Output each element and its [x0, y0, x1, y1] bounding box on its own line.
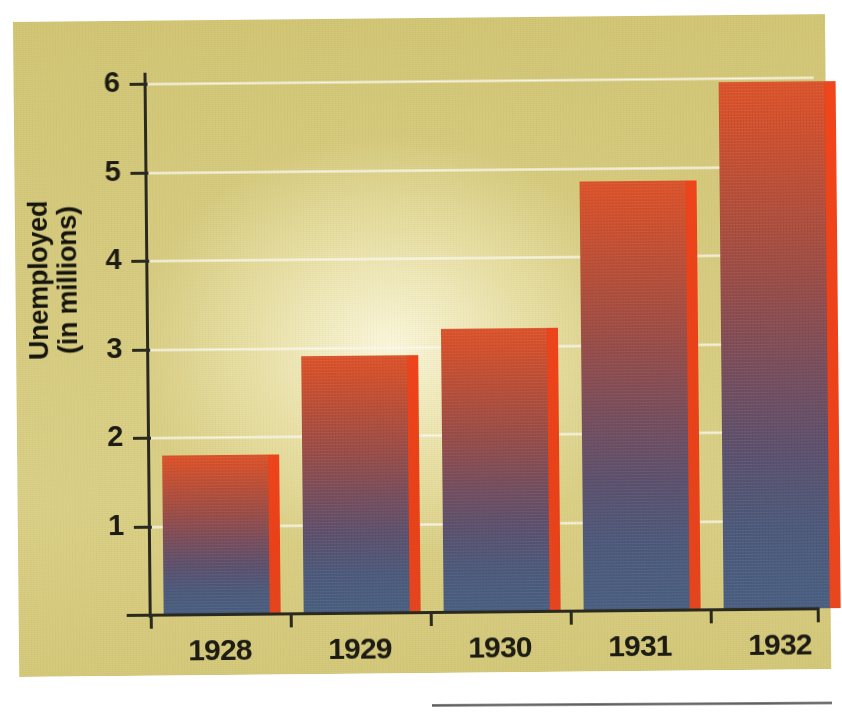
y-tick-1	[134, 525, 152, 528]
gridline-5	[146, 165, 814, 174]
y-axis-line	[143, 73, 151, 618]
x-tick-1931	[570, 610, 573, 625]
y-tick-5	[130, 171, 148, 174]
x-tick-1930	[430, 611, 433, 626]
y-tick-2	[133, 437, 151, 440]
y-tick-label-2: 2	[83, 422, 123, 451]
bar-edge-1928	[268, 454, 281, 613]
bar-1929[interactable]	[301, 356, 409, 614]
gridline-4	[147, 253, 815, 262]
x-tick-1929	[290, 612, 293, 627]
y-tick-6	[130, 83, 148, 86]
bottom-rule	[432, 702, 832, 707]
bar-1928[interactable]	[162, 454, 270, 614]
x-tick-1932	[710, 608, 713, 623]
y-tick-label-4: 4	[81, 245, 121, 274]
y-tick-label-3: 3	[82, 333, 122, 362]
chart-figure: 6 5 4 3 2 1 1928 1929 1930 1931 1932	[0, 0, 842, 716]
gridline-6	[146, 76, 814, 85]
y-tick-label-5: 5	[80, 156, 120, 185]
bar-1930[interactable]	[441, 328, 550, 612]
y-tick-3	[132, 348, 150, 351]
bar-1932[interactable]	[719, 82, 830, 610]
y-tick-label-1: 1	[84, 510, 124, 539]
y-axis-title-line2: (in millions)	[52, 150, 83, 410]
chart-panel: 6 5 4 3 2 1 1928 1929 1930 1931 1932	[13, 14, 831, 677]
y-axis-title: Unemployed (in millions)	[24, 150, 84, 411]
y-tick-4	[131, 260, 149, 263]
x-axis-label-1929: 1929	[295, 633, 425, 664]
y-tick-label-6: 6	[79, 68, 119, 97]
bar-edge-1929	[407, 355, 420, 612]
x-tick-end	[817, 607, 820, 622]
y-axis-title-line1: Unemployed	[24, 150, 55, 410]
x-axis-label-1928: 1928	[155, 634, 285, 665]
x-axis-label-1932: 1932	[715, 629, 842, 660]
x-axis-label-1930: 1930	[435, 632, 565, 663]
bar-1931[interactable]	[580, 180, 690, 610]
x-axis-label-1931: 1931	[575, 630, 705, 661]
bar-edge-1930	[547, 328, 561, 611]
x-tick-1928	[150, 614, 153, 629]
plot-area: 6 5 4 3 2 1 1928 1929 1930 1931 1932	[13, 14, 831, 677]
